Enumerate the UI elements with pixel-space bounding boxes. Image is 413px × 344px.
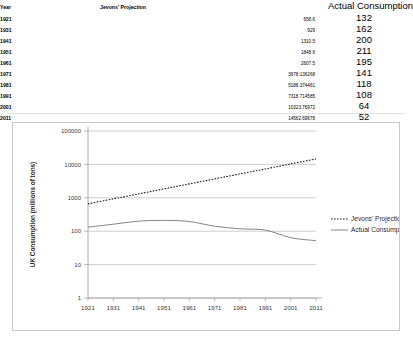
x-tick-label: 1971 [208, 304, 222, 311]
column-header-jevons-projection: Jevons' Projection [100, 0, 315, 12]
x-tick-label: 1991 [258, 304, 272, 311]
chart-legend: Jevons' Projection Actual Consumption [331, 215, 399, 234]
y-axis-ticks: 110100100010000100000 [61, 128, 88, 301]
table-row: 1971 3678.136268 141 [0, 67, 413, 78]
table-row: 2001 10323.76972 64 [0, 100, 413, 111]
table-row: 1991 7318.714585 108 [0, 89, 413, 100]
cell-actual: 211 [315, 45, 413, 56]
cell-actual: 118 [315, 78, 413, 89]
table-row: 1941 1310.5 200 [0, 34, 413, 45]
cell-actual: 132 [315, 12, 413, 23]
column-header-actual-consumption: Actual Consumption [315, 0, 413, 12]
cell-year: 1961 [0, 56, 100, 67]
cell-year: 1991 [0, 89, 100, 100]
cell-year: 1981 [0, 78, 100, 89]
table-row: 1961 2607.5 195 [0, 56, 413, 67]
cell-year: 1931 [0, 23, 100, 34]
consumption-data-table: Year Jevons' Projection Actual Consumpti… [0, 0, 413, 122]
cell-jevons: 1310.5 [100, 34, 315, 45]
cell-year: 1951 [0, 45, 100, 56]
x-tick-label: 2011 [309, 304, 323, 311]
y-axis-title: UK Consumption (millions of tons) [29, 162, 37, 267]
cell-jevons: 3678.136268 [100, 67, 315, 78]
legend-label-jevons-projection: Jevons' Projection [351, 215, 399, 223]
table-row: 1921 658.6 132 [0, 12, 413, 23]
y-tick-label: 100 [71, 228, 82, 234]
cell-year: 1941 [0, 34, 100, 45]
y-tick-label: 10000 [64, 162, 81, 168]
y-tick-label: 100000 [61, 128, 82, 134]
table-row: 1981 5188.374461 118 [0, 78, 413, 89]
cell-jevons: 929 [100, 23, 315, 34]
cell-jevons: 1848.6 [100, 45, 315, 56]
consumption-log-chart: 110100100010000100000 192119311941195119… [13, 123, 399, 330]
cell-year: 2001 [0, 100, 100, 111]
table-header-row: Year Jevons' Projection Actual Consumpti… [0, 0, 413, 12]
cell-year: 1921 [0, 12, 100, 23]
cell-jevons: 658.6 [100, 12, 315, 23]
x-tick-label: 2001 [284, 304, 298, 311]
x-axis-ticks: 1921193119411951196119711981199120012011 [81, 298, 323, 311]
series-line-jevons-projection [88, 159, 316, 204]
y-tick-label: 1000 [68, 195, 82, 201]
x-tick-label: 1981 [233, 304, 247, 311]
x-tick-label: 1931 [106, 304, 120, 311]
cell-actual: 200 [315, 34, 413, 45]
cell-actual: 195 [315, 56, 413, 67]
cell-actual: 108 [315, 89, 413, 100]
cell-jevons: 2607.5 [100, 56, 315, 67]
table-row: 1931 929 162 [0, 23, 413, 34]
cell-year: 1971 [0, 67, 100, 78]
legend-label-actual-consumption: Actual Consumption [351, 226, 399, 234]
x-tick-label: 1961 [182, 304, 196, 311]
grid-lines [88, 131, 316, 298]
column-header-year: Year [0, 0, 100, 12]
x-tick-label: 1921 [81, 304, 95, 311]
cell-jevons: 7318.714585 [100, 89, 315, 100]
cell-jevons: 5188.374461 [100, 78, 315, 89]
cell-actual: 141 [315, 67, 413, 78]
table-body: 1921 658.6 132 1931 929 162 1941 1310.5 … [0, 12, 413, 122]
x-tick-label: 1951 [157, 304, 171, 311]
table-row: 1951 1848.6 211 [0, 45, 413, 56]
y-tick-label: 10 [74, 262, 81, 268]
cell-actual: 64 [315, 100, 413, 111]
y-tick-label: 1 [78, 295, 82, 301]
x-tick-label: 1941 [132, 304, 146, 311]
cell-jevons: 10323.76972 [100, 100, 315, 111]
table-bottom-divider [8, 113, 405, 114]
series-line-actual-consumption [88, 220, 316, 240]
chart-frame: 110100100010000100000 192119311941195119… [12, 122, 400, 331]
table-header: Year Jevons' Projection Actual Consumpti… [0, 0, 413, 12]
cell-actual: 162 [315, 23, 413, 34]
data-table-region: Year Jevons' Projection Actual Consumpti… [0, 0, 413, 114]
